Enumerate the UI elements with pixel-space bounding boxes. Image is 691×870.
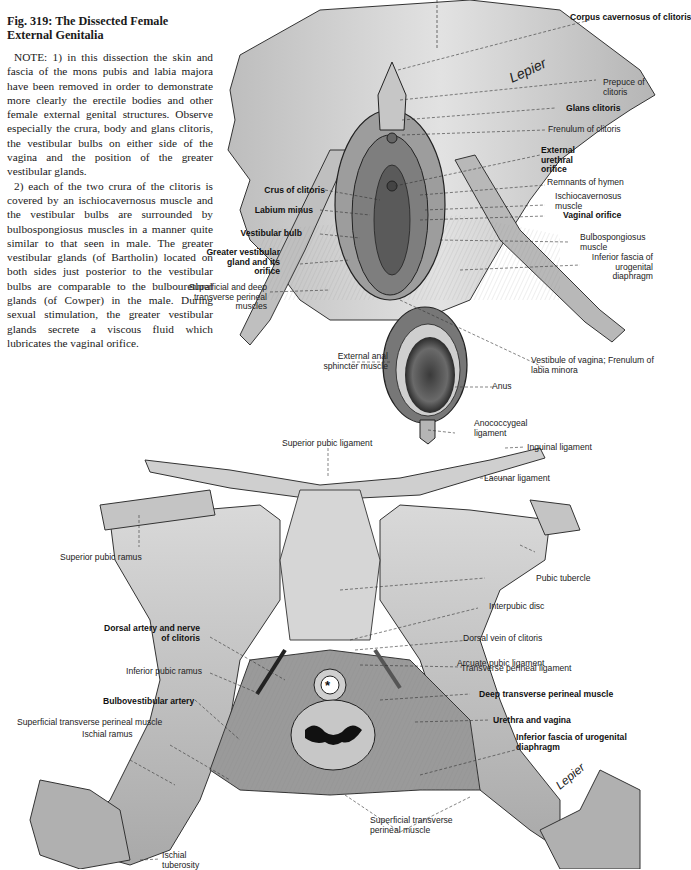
- label-glans-clitoris: Glans clitoris: [566, 104, 620, 114]
- label-dorsal-artery-nerve: Dorsal artery and nerve of clitoris: [100, 624, 200, 643]
- label-interpubic-disc: Interpubic disc: [489, 602, 544, 612]
- label-transverse-perineal-ligament: Transverse perineal ligament: [461, 664, 572, 674]
- label-bulbospongiosus: Bulbospongiosus muscle: [580, 233, 650, 252]
- label-frenulum-clitoris: Frenulum of clitoris: [548, 125, 621, 135]
- label-ischial-tuberosity: Ischial tuberosity: [162, 851, 212, 870]
- label-urethra-vagina: Urethra and vagina: [493, 716, 571, 726]
- label-lacunar-ligament: Lacunar ligament: [484, 474, 550, 484]
- label-deep-transverse-perineal: Deep transverse perineal muscle: [479, 690, 613, 700]
- label-corpus-cavernosus: Corpus cavernosus of clitoris: [570, 13, 652, 23]
- upper-figure-drawing: Lepier: [228, 0, 655, 444]
- label-crus-clitoris: Crus of clitoris: [230, 186, 325, 196]
- label-vestibular-bulb: Vestibular bulb: [220, 229, 302, 239]
- label-superficial-deep-transverse: Superficial and deep transverse perineal…: [185, 283, 267, 312]
- label-greater-vestibular-gland: Greater vestibular gland and its orifice: [200, 248, 280, 277]
- label-inguinal-ligament: Inguinal ligament: [527, 443, 592, 453]
- label-superficial-transverse-bottom: Superficial transverse perineal muscle: [370, 816, 465, 835]
- label-ischial-ramus: Ischial ramus: [82, 730, 133, 740]
- label-anococcygeal: Anococcygeal ligament: [474, 419, 529, 438]
- label-dorsal-vein-clitoris: Dorsal vein of clitoris: [463, 634, 542, 644]
- label-superficial-transverse-left: Superficial transverse perineal muscle: [17, 718, 162, 728]
- label-pubic-tubercle: Pubic tubercle: [536, 574, 590, 584]
- label-ischiocavernosus: Ischiocavernosus muscle: [555, 192, 635, 211]
- svg-text:Lepier: Lepier: [553, 759, 588, 792]
- label-vaginal-orifice: Vaginal orifice: [563, 211, 621, 221]
- label-inferior-fascia-urogenital: Inferior fascia of urogenital diaphragm: [516, 733, 641, 752]
- label-inferior-pubic-ramus: Inferior pubic ramus: [126, 667, 202, 677]
- label-remnants-hymen: Remnants of hymen: [547, 178, 624, 188]
- label-bulbovestibular-artery: Bulbovestibular artery: [103, 697, 194, 707]
- label-vestibule-vagina: Vestibule of vagina; Frenulum of labia m…: [531, 356, 656, 375]
- label-superior-pubic-ramus: Superior pubic ramus: [60, 553, 142, 563]
- lower-figure-drawing: * Lepier: [30, 447, 640, 869]
- label-anus: Anus: [492, 382, 512, 392]
- label-inferior-fascia-upper: Inferior fascia of urogenital diaphragm: [585, 253, 653, 282]
- label-prepuce: Prepuce of clitoris: [603, 78, 653, 97]
- label-superior-pubic-ligament: Superior pubic ligament: [282, 439, 372, 449]
- label-labium-minus: Labium minus: [230, 206, 313, 216]
- label-external-anal-sphincter: External anal sphincter muscle: [320, 352, 388, 371]
- label-external-urethral-orifice: External urethral orifice: [541, 146, 601, 175]
